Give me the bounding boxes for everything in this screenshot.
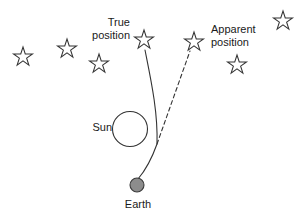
star-true-position-icon: [134, 30, 153, 48]
star-left-upper-icon: [57, 39, 76, 57]
star-below-true-label-icon: [89, 54, 108, 72]
true-light-path: [138, 50, 157, 179]
star-apparent-position-icon: [184, 32, 203, 50]
astronomy-light-bending-diagram: True position Apparent position Sun Eart…: [0, 0, 302, 220]
light-paths: [138, 50, 190, 179]
star-below-apparent-label-icon: [227, 55, 246, 73]
star-top-right-icon: [273, 11, 292, 29]
apparent-light-path-dashed: [157, 51, 190, 144]
true-position-label: True position: [84, 16, 130, 41]
sun-body: [113, 112, 148, 147]
sun-label: Sun: [86, 121, 112, 134]
star-far-left-lower-icon: [13, 47, 32, 65]
earth-label: Earth: [117, 198, 159, 211]
earth-body: [130, 178, 144, 192]
apparent-position-label: Apparent position: [211, 23, 273, 48]
